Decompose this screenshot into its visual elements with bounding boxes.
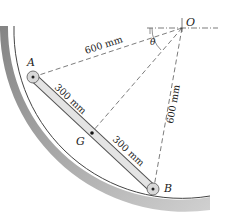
dim-OA: 600 mm [83, 33, 124, 56]
curved-surface [0, 26, 210, 212]
label-B: B [163, 182, 172, 195]
dim-OB: 600 mm [164, 84, 182, 124]
line-OA [33, 28, 182, 77]
roller-B [147, 183, 159, 195]
label-A: A [26, 56, 35, 69]
label-theta: θ [150, 37, 156, 47]
roller-A [27, 71, 39, 83]
label-O: O [186, 16, 195, 29]
diagram-canvas: O A B G θ 600 mm 600 mm 300 mm 300 mm [0, 0, 228, 213]
label-G: G [76, 135, 85, 148]
center-of-mass-G [90, 131, 94, 135]
